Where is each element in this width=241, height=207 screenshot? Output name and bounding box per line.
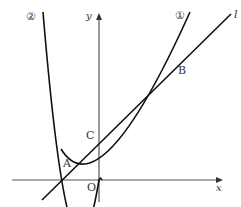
parabola-curve-1 — [61, 12, 190, 164]
y-axis — [96, 13, 102, 202]
x-axis-label: x — [216, 182, 222, 193]
point-c-label: C — [86, 129, 94, 142]
line-l-label: l — [234, 8, 238, 21]
curve-2-label: ② — [26, 10, 36, 23]
y-axis-arrow-icon — [96, 13, 102, 20]
curve-1-label: ① — [175, 9, 185, 22]
y-axis-label: y — [85, 10, 92, 21]
function-graph-diagram: ② ① l y x O A C B — [0, 0, 241, 207]
point-b-label: B — [178, 64, 186, 77]
point-a-label: A — [62, 157, 72, 170]
x-axis — [12, 177, 223, 183]
origin-label: O — [87, 181, 96, 194]
parabola-curve-2 — [43, 12, 102, 207]
line-l — [42, 14, 231, 200]
